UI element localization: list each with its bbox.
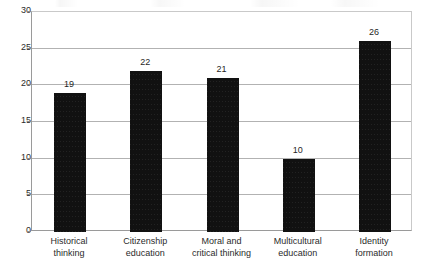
x-axis-category-label: Multiculturaleducation (260, 236, 336, 259)
bar-value-label: 22 (125, 58, 165, 67)
bar-value-label: 21 (202, 65, 242, 74)
x-axis-category-label-line: Moral and (183, 236, 259, 248)
x-axis-category-label-line: Multicultural (260, 236, 336, 248)
bar (54, 93, 86, 232)
bar (130, 71, 162, 232)
bar-chart: 051015202530 1922211026 Historicalthinki… (0, 0, 426, 267)
x-axis-category-label: Identityformation (336, 236, 412, 259)
x-axis-category-label-line: critical thinking (183, 248, 259, 260)
x-axis-category-label-line: Historical (31, 236, 107, 248)
y-axis: 051015202530 (0, 0, 31, 267)
bar (283, 159, 315, 232)
x-axis-category-label: Citizenshipeducation (107, 236, 183, 259)
x-axis-category-label: Moral andcritical thinking (183, 236, 259, 259)
x-axis-category-label-line: Citizenship (107, 236, 183, 248)
x-axis-category-label-line: Identity (336, 236, 412, 248)
bar (359, 41, 391, 232)
x-axis-category-label-line: thinking (31, 248, 107, 260)
x-axis-category-label-line: education (107, 248, 183, 260)
bar-value-label: 19 (49, 80, 89, 89)
y-axis-tick-mark-0 (27, 231, 31, 232)
x-axis-category-label-line: formation (336, 248, 412, 260)
plot-area (31, 11, 412, 231)
bar-value-label: 26 (354, 28, 394, 37)
gridline-25 (32, 48, 411, 49)
x-axis-category-label: Historicalthinking (31, 236, 107, 259)
scan-artifact-band (0, 0, 426, 7)
bar-value-label: 10 (278, 146, 318, 155)
x-axis-category-label-line: education (260, 248, 336, 260)
bar (207, 78, 239, 232)
